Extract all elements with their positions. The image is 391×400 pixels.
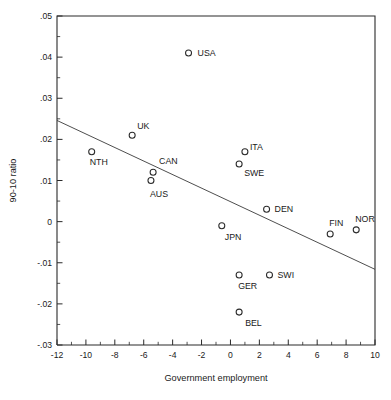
data-point[interactable]: AUS (148, 178, 168, 199)
data-point[interactable]: USA (186, 48, 216, 58)
y-tick-label: 0 (47, 217, 52, 227)
point-marker-nor (353, 227, 359, 233)
point-marker-can (150, 169, 156, 175)
point-marker-nth (89, 149, 95, 155)
point-label-den: DEN (275, 204, 294, 214)
data-point[interactable]: SWE (236, 161, 264, 178)
plot-frame (57, 16, 375, 345)
y-tick-label: -.03 (37, 340, 52, 350)
y-axis-title: 90-10 ratio (8, 159, 18, 203)
y-tick-label: -.01 (37, 258, 52, 268)
point-marker-den (264, 206, 270, 212)
data-point[interactable]: SWI (266, 270, 294, 280)
x-axis-title: Government employment (164, 373, 268, 383)
x-tick-label: -12 (51, 350, 64, 360)
data-point[interactable]: NTH (89, 149, 108, 167)
x-tick-label: 10 (370, 350, 380, 360)
point-label-nor: NOR (355, 214, 375, 224)
x-tick-label: 8 (344, 350, 349, 360)
axis-frame (57, 16, 375, 345)
point-label-nth: NTH (90, 157, 108, 167)
point-label-swe: SWE (244, 168, 264, 178)
point-marker-ger (236, 272, 242, 278)
data-point[interactable]: FIN (327, 218, 343, 237)
data-point[interactable]: NOR (353, 214, 375, 233)
data-point[interactable]: JPN (219, 223, 242, 242)
x-tick-label: 2 (257, 350, 262, 360)
y-tick-label: .02 (40, 134, 52, 144)
y-axis-title-group: 90-10 ratio (8, 159, 18, 203)
data-point[interactable]: BEL (236, 309, 262, 328)
point-label-ita: ITA (250, 142, 263, 152)
point-label-can: CAN (159, 156, 178, 166)
point-marker-usa (186, 50, 192, 56)
y-tick-label: -.02 (37, 299, 52, 309)
point-label-aus: AUS (150, 189, 168, 199)
x-tick-label: -6 (140, 350, 148, 360)
y-tick-label: .01 (40, 176, 52, 186)
plot-svg: .05.04.03.02.010-.01-.02-.03 -12-10-8-6-… (0, 0, 391, 400)
x-tick-labels: -12-10-8-6-4-20246810 (51, 350, 380, 360)
point-label-bel: BEL (245, 318, 262, 328)
point-label-fin: FIN (329, 218, 343, 228)
y-tick-label: .05 (40, 11, 52, 21)
y-tick-labels: .05.04.03.02.010-.01-.02-.03 (37, 11, 52, 350)
point-marker-aus (148, 178, 154, 184)
point-label-uk: UK (137, 121, 149, 131)
x-tick-label: 0 (228, 350, 233, 360)
x-tick-label: -8 (111, 350, 119, 360)
x-tick-label: 4 (286, 350, 291, 360)
point-marker-ita (242, 149, 248, 155)
point-label-jpn: JPN (225, 232, 242, 242)
point-marker-uk (129, 132, 135, 138)
point-label-usa: USA (198, 48, 216, 58)
y-tick-label: .04 (40, 52, 52, 62)
data-point[interactable]: UK (129, 121, 149, 138)
data-point[interactable]: GER (236, 272, 257, 291)
x-tick-label: -4 (169, 350, 177, 360)
point-marker-swe (236, 161, 242, 167)
point-marker-bel (236, 309, 242, 315)
y-tick-label: .03 (40, 93, 52, 103)
regression-line (57, 120, 375, 269)
point-label-ger: GER (238, 281, 257, 291)
point-label-swi: SWI (277, 270, 294, 280)
x-axis-title-group: Government employment (164, 373, 268, 383)
data-point-group: USAUKNTHCANAUSITASWEDENFINNORJPNGERSWIBE… (89, 48, 375, 328)
point-marker-jpn (219, 223, 225, 229)
y-major-ticks (57, 16, 63, 345)
scatter-chart: .05.04.03.02.010-.01-.02-.03 -12-10-8-6-… (0, 0, 391, 400)
x-tick-label: -2 (198, 350, 206, 360)
fit-line-group (57, 120, 375, 269)
x-tick-label: 6 (315, 350, 320, 360)
data-point[interactable]: DEN (264, 204, 294, 214)
data-point[interactable]: ITA (242, 142, 263, 155)
point-marker-fin (327, 231, 333, 237)
point-marker-swi (266, 272, 272, 278)
x-tick-label: -10 (80, 350, 93, 360)
